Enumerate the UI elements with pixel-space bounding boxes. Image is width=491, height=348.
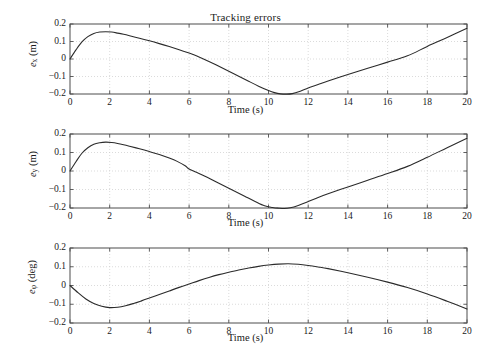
y-axis-tick-label: −0.2: [32, 202, 66, 212]
y-axis-tick-label: −0.1: [32, 298, 66, 308]
x-axis-tick-label: 2: [99, 97, 121, 107]
y-axis-tick-label: −0.1: [32, 71, 66, 81]
x-axis-tick-label: 0: [59, 211, 81, 221]
error-y-panel: ey (m) Time (s) 024681012141618200.20.10…: [0, 118, 491, 233]
y-axis-tick-label: 0.2: [32, 18, 66, 28]
x-axis-tick-label: 6: [178, 97, 200, 107]
x-axis-tick-label: 6: [178, 211, 200, 221]
y-axis-tick-label: 0: [32, 280, 66, 290]
y-axis-tick-label: 0.1: [32, 147, 66, 157]
x-axis-tick-label: 10: [258, 326, 280, 336]
x-axis-tick-label: 14: [337, 97, 359, 107]
x-axis-tick-label: 0: [59, 97, 81, 107]
x-axis-tick-label: 18: [416, 97, 438, 107]
x-axis-tick-label: 20: [456, 97, 478, 107]
x-axis-tick-label: 18: [416, 211, 438, 221]
x-axis-tick-label: 4: [138, 211, 160, 221]
x-axis-tick-label: 6: [178, 326, 200, 336]
y-axis-tick-label: 0.1: [32, 261, 66, 271]
error-phi-panel: eφ (deg) Time (s) 024681012141618200.20.…: [0, 233, 491, 348]
x-axis-tick-label: 10: [258, 97, 280, 107]
x-axis-tick-label: 0: [59, 326, 81, 336]
x-axis-tick-label: 20: [456, 211, 478, 221]
x-axis-tick-label: 8: [218, 97, 240, 107]
x-axis-tick-label: 8: [218, 326, 240, 336]
x-axis-tick-label: 10: [258, 211, 280, 221]
x-axis-tick-label: 4: [138, 97, 160, 107]
y-axis-tick-label: 0.2: [32, 128, 66, 138]
error-x-panel: Tracking errors ex (m) Time (s) 02468101…: [0, 0, 491, 118]
y-axis-tick-label: 0.2: [32, 242, 66, 252]
x-axis-tick-label: 16: [377, 97, 399, 107]
x-axis-tick-label: 12: [297, 211, 319, 221]
x-axis-tick-label: 2: [99, 326, 121, 336]
y-axis-tick-label: 0: [32, 165, 66, 175]
y-axis-tick-label: 0.1: [32, 36, 66, 46]
x-axis-tick-label: 16: [377, 326, 399, 336]
x-axis-tick-label: 14: [337, 326, 359, 336]
x-axis-tick-label: 16: [377, 211, 399, 221]
x-axis-tick-label: 14: [337, 211, 359, 221]
x-axis-tick-label: 18: [416, 326, 438, 336]
x-axis-tick-label: 12: [297, 97, 319, 107]
y-axis-tick-label: −0.2: [32, 88, 66, 98]
y-axis-tick-label: −0.1: [32, 184, 66, 194]
y-axis-tick-label: 0: [32, 53, 66, 63]
x-axis-tick-label: 12: [297, 326, 319, 336]
y-axis-tick-label: −0.2: [32, 317, 66, 327]
x-axis-tick-label: 20: [456, 326, 478, 336]
x-axis-tick-label: 4: [138, 326, 160, 336]
x-axis-tick-label: 8: [218, 211, 240, 221]
x-axis-tick-label: 2: [99, 211, 121, 221]
tracking-errors-figure: Tracking errors ex (m) Time (s) 02468101…: [0, 0, 491, 348]
